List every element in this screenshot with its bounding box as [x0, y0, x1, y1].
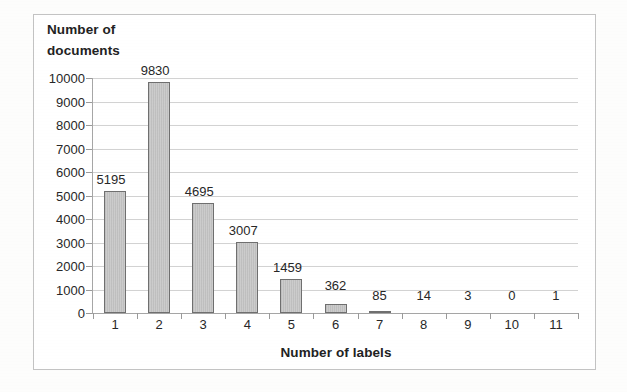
x-tick-label-10: 10: [490, 317, 534, 332]
bar-6: [325, 304, 347, 313]
bar-7: [369, 311, 391, 313]
bar-5: [280, 279, 302, 313]
x-tick-label-6: 6: [313, 317, 357, 332]
bar-2: [148, 82, 170, 313]
x-tick-label-11: 11: [534, 317, 578, 332]
x-axis-title: Number of labels: [93, 345, 579, 360]
data-label-3: 4695: [173, 184, 225, 199]
x-tick-label-8: 8: [402, 317, 446, 332]
x-tick-label-3: 3: [181, 317, 225, 332]
data-label-2: 9830: [129, 63, 181, 78]
gridline-10000: [93, 78, 578, 79]
x-tick-label-9: 9: [446, 317, 490, 332]
data-label-1: 5195: [85, 172, 137, 187]
bar-1: [104, 191, 126, 313]
x-tick-label-1: 1: [93, 317, 137, 332]
x-tick-label-4: 4: [225, 317, 269, 332]
y-axis-title: Number of documents: [47, 19, 177, 61]
data-label-4: 3007: [217, 223, 269, 238]
chart-page: Number of documents 01000200030004000500…: [0, 0, 627, 392]
x-tick-11: [578, 313, 579, 319]
data-label-5: 1459: [261, 260, 313, 275]
bar-4: [236, 242, 258, 313]
x-tick-label-2: 2: [137, 317, 181, 332]
bar-3: [192, 203, 214, 313]
x-tick-label-7: 7: [358, 317, 402, 332]
x-tick-label-5: 5: [269, 317, 313, 332]
data-label-11: 1: [530, 288, 582, 303]
gridline-0: [93, 313, 578, 314]
